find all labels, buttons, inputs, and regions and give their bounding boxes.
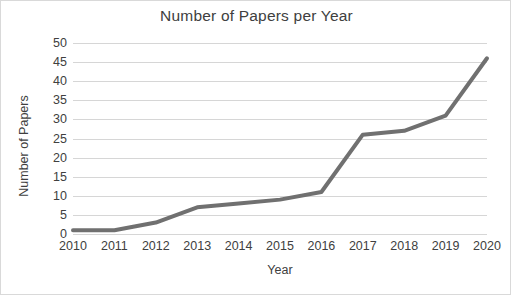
- chart-figure: Number of Papers per Year Number of Pape…: [0, 0, 511, 295]
- x-axis-tick-label: 2019: [424, 239, 468, 253]
- x-axis-tick-labels: 2010201120122013201420152016201720182019…: [73, 239, 487, 259]
- x-axis-tick-label: 2012: [134, 239, 178, 253]
- x-axis-tick-label: 2020: [465, 239, 509, 253]
- x-axis-tick-label: 2010: [51, 239, 95, 253]
- x-axis-tick-label: 2013: [175, 239, 219, 253]
- x-axis-tick-label: 2018: [382, 239, 426, 253]
- y-axis-tick-label: 25: [27, 132, 67, 146]
- y-axis-tick-label: 15: [27, 170, 67, 184]
- gridline: [73, 234, 487, 235]
- y-axis-tick-label: 45: [27, 55, 67, 69]
- x-axis-tick-label: 2014: [217, 239, 261, 253]
- x-axis-tick-label: 2017: [341, 239, 385, 253]
- y-axis-tick-label: 20: [27, 151, 67, 165]
- x-axis-tick-label: 2016: [299, 239, 343, 253]
- x-axis-tick-label: 2011: [92, 239, 136, 253]
- chart-title: Number of Papers per Year: [1, 7, 511, 25]
- x-axis-title: Year: [73, 263, 487, 277]
- y-axis-tick-label: 35: [27, 93, 67, 107]
- y-axis-tick-label: 30: [27, 112, 67, 126]
- x-axis-tick-label: 2015: [258, 239, 302, 253]
- y-axis-tick-label: 10: [27, 189, 67, 203]
- y-axis-tick-label: 50: [27, 36, 67, 50]
- series-line-layer: [73, 43, 487, 234]
- y-axis-tick-label: 5: [27, 208, 67, 222]
- series-line-number-of-papers: [73, 58, 487, 230]
- plot-area: [73, 43, 487, 234]
- y-axis-tick-label: 40: [27, 74, 67, 88]
